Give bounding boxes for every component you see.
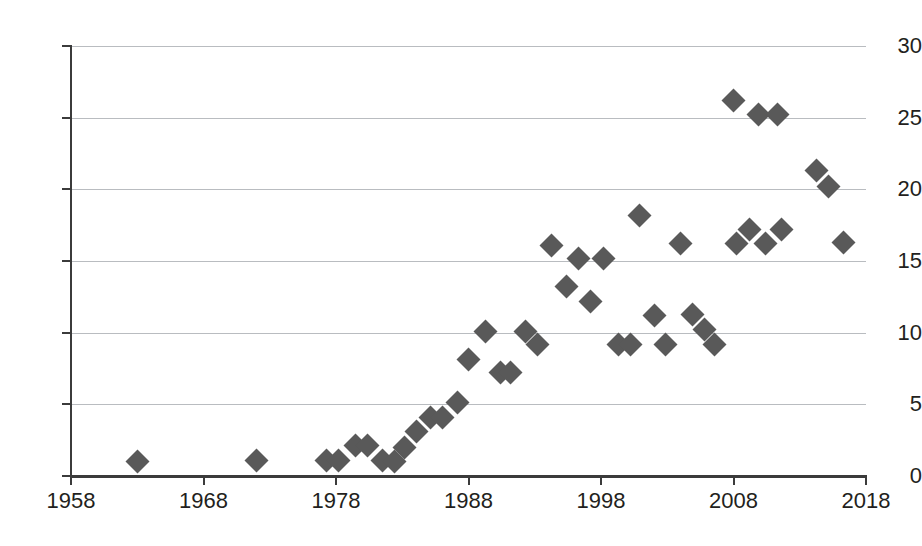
data-point: [244, 448, 268, 472]
plot-area: [71, 46, 866, 476]
data-point: [627, 203, 651, 227]
data-point: [668, 232, 692, 256]
y-tick-label-30: 30: [868, 35, 922, 57]
data-point: [578, 289, 602, 313]
y-tick-label-5: 5: [868, 393, 922, 415]
data-point: [446, 391, 470, 415]
x-tick-label-1958: 1958: [26, 490, 116, 512]
x-tick-1968: [203, 476, 205, 485]
y-tick-label-15: 15: [868, 250, 922, 272]
x-tick-label-1978: 1978: [291, 490, 381, 512]
y-tick-5: [62, 403, 71, 405]
data-point: [642, 303, 666, 327]
data-point: [753, 232, 777, 256]
gridline-y-20: [71, 189, 866, 190]
y-tick-15: [62, 260, 71, 262]
y-tick-25: [62, 117, 71, 119]
x-tick-1988: [468, 476, 470, 485]
data-point: [540, 233, 564, 257]
data-point: [125, 450, 149, 474]
gridline-y-10: [71, 333, 866, 334]
x-tick-label-1988: 1988: [424, 490, 514, 512]
gridline-y-5: [71, 404, 866, 405]
x-tick-label-2018: 2018: [821, 490, 911, 512]
y-tick-label-10: 10: [868, 322, 922, 344]
data-point: [654, 332, 678, 356]
data-point: [592, 246, 616, 270]
x-tick-label-1968: 1968: [159, 490, 249, 512]
y-tick-label-25: 25: [868, 107, 922, 129]
x-tick-label-2008: 2008: [689, 490, 779, 512]
y-tick-label-0: 0: [868, 465, 922, 487]
y-tick-label-20: 20: [868, 178, 922, 200]
data-point: [765, 103, 789, 127]
x-tick-2018: [865, 476, 867, 485]
data-point: [566, 246, 590, 270]
y-tick-30: [62, 45, 71, 47]
x-tick-1958: [70, 476, 72, 485]
x-tick-2008: [733, 476, 735, 485]
y-tick-20: [62, 188, 71, 190]
gridline-y-25: [71, 118, 866, 119]
data-point: [831, 230, 855, 254]
data-point: [456, 348, 480, 372]
x-tick-1978: [335, 476, 337, 485]
gridline-y-15: [71, 261, 866, 262]
scatter-chart: 051015202530 195819681978198819982008201…: [0, 0, 922, 546]
gridline-y-30: [71, 46, 866, 47]
data-point: [721, 88, 745, 112]
data-point: [555, 275, 579, 299]
x-tick-1998: [600, 476, 602, 485]
data-point: [474, 319, 498, 343]
x-tick-label-1998: 1998: [556, 490, 646, 512]
y-tick-10: [62, 332, 71, 334]
